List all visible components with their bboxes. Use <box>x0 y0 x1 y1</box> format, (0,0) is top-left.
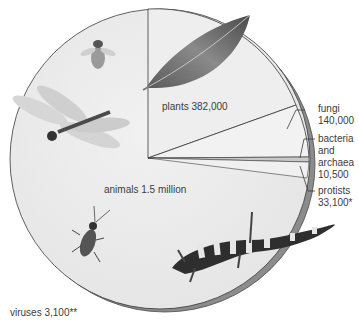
label-protists-value: 33,100* <box>318 197 352 209</box>
label-viruses: viruses 3,100** <box>10 307 77 319</box>
label-protists-name: protists <box>318 185 350 197</box>
label-bacteria-name-1: bacteria <box>318 133 354 145</box>
label-fungi-name: fungi <box>318 103 340 115</box>
label-fungi-value: 140,000 <box>318 115 354 127</box>
label-plants: plants 382,000 <box>162 101 228 113</box>
label-bacteria-name-2: and <box>318 145 335 157</box>
pie-chart <box>0 0 359 325</box>
label-bacteria-name-3: archaea <box>318 157 354 169</box>
label-bacteria-value: 10,500 <box>318 169 349 181</box>
label-animals: animals 1.5 million <box>104 184 186 196</box>
